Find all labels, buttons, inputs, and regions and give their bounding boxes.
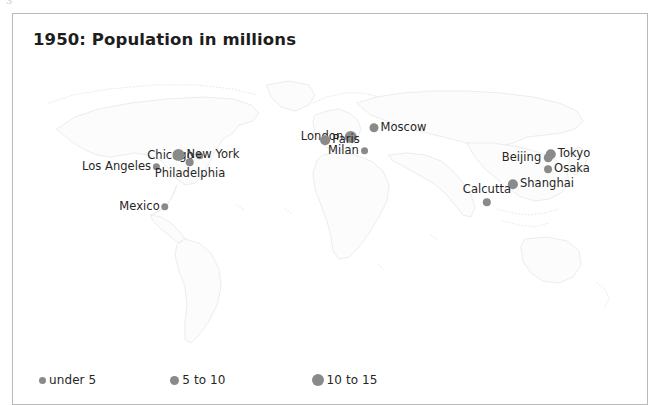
city-label: Beijing bbox=[502, 152, 542, 164]
figure-title: 1950: Population in millions bbox=[33, 30, 296, 49]
legend-item[interactable]: 10 to 15 bbox=[312, 374, 378, 386]
city-label: Calcutta bbox=[463, 184, 511, 196]
legend-dot-icon bbox=[170, 376, 179, 385]
city-label: Philadelphia bbox=[155, 168, 226, 180]
city-marker[interactable]: Calcutta bbox=[463, 184, 511, 206]
page-number-artifact: 3 bbox=[6, 0, 12, 6]
city-marker[interactable]: Shanghai bbox=[508, 178, 574, 190]
city-dot-icon bbox=[544, 165, 552, 173]
legend-item[interactable]: under 5 bbox=[39, 374, 96, 386]
legend-dot-icon bbox=[39, 377, 46, 384]
legend-item[interactable]: 5 to 10 bbox=[170, 374, 225, 386]
city-label: Milan bbox=[328, 145, 359, 157]
city-marker[interactable]: Los Angeles bbox=[82, 161, 160, 173]
city-marker[interactable]: Moscow bbox=[369, 122, 426, 134]
city-label: Tokyo bbox=[558, 148, 590, 160]
city-dot-icon bbox=[546, 149, 556, 159]
world-map-plot: Los AngelesChicagoNew YorkPhiladelphiaMe… bbox=[27, 59, 633, 359]
world-map-outline bbox=[27, 59, 633, 359]
city-marker[interactable]: Mexico bbox=[119, 201, 168, 213]
legend-label: 10 to 15 bbox=[327, 374, 378, 386]
city-marker[interactable]: Beijing bbox=[502, 152, 553, 164]
legend-label: under 5 bbox=[49, 374, 96, 386]
city-dot-icon bbox=[369, 124, 378, 133]
legend-dot-icon bbox=[312, 374, 324, 386]
city-label: Los Angeles bbox=[82, 161, 151, 173]
legend-label: 5 to 10 bbox=[182, 374, 225, 386]
figure-frame: 1950: Population in millions bbox=[12, 13, 648, 405]
city-dot-icon bbox=[361, 148, 368, 155]
city-label: Mexico bbox=[119, 201, 159, 213]
city-marker[interactable]: Philadelphia bbox=[155, 158, 226, 180]
city-label: Osaka bbox=[554, 163, 590, 175]
city-marker[interactable]: Tokyo bbox=[546, 148, 590, 160]
city-dot-icon bbox=[186, 158, 194, 166]
city-dot-icon bbox=[162, 204, 169, 211]
city-label: Moscow bbox=[380, 122, 426, 134]
size-legend: under 55 to 1010 to 15 bbox=[39, 374, 378, 386]
city-dot-icon bbox=[483, 198, 491, 206]
city-label: Shanghai bbox=[520, 178, 574, 190]
city-marker[interactable]: Osaka bbox=[544, 163, 590, 175]
city-marker[interactable]: Milan bbox=[328, 145, 368, 157]
